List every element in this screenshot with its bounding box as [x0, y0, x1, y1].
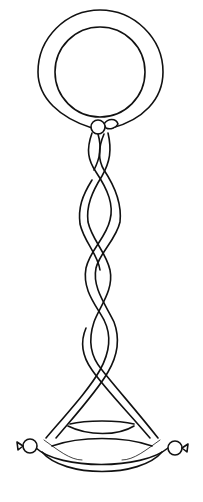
right-knot [168, 441, 188, 455]
balloon-sculpture-drawing [0, 0, 203, 502]
illustration-canvas: Balloon twist sculpture: ring on top, tw… [0, 0, 203, 502]
twisted-braid [46, 133, 158, 438]
left-knot [17, 439, 37, 453]
triangle-base [36, 421, 168, 472]
ring [38, 10, 163, 128]
